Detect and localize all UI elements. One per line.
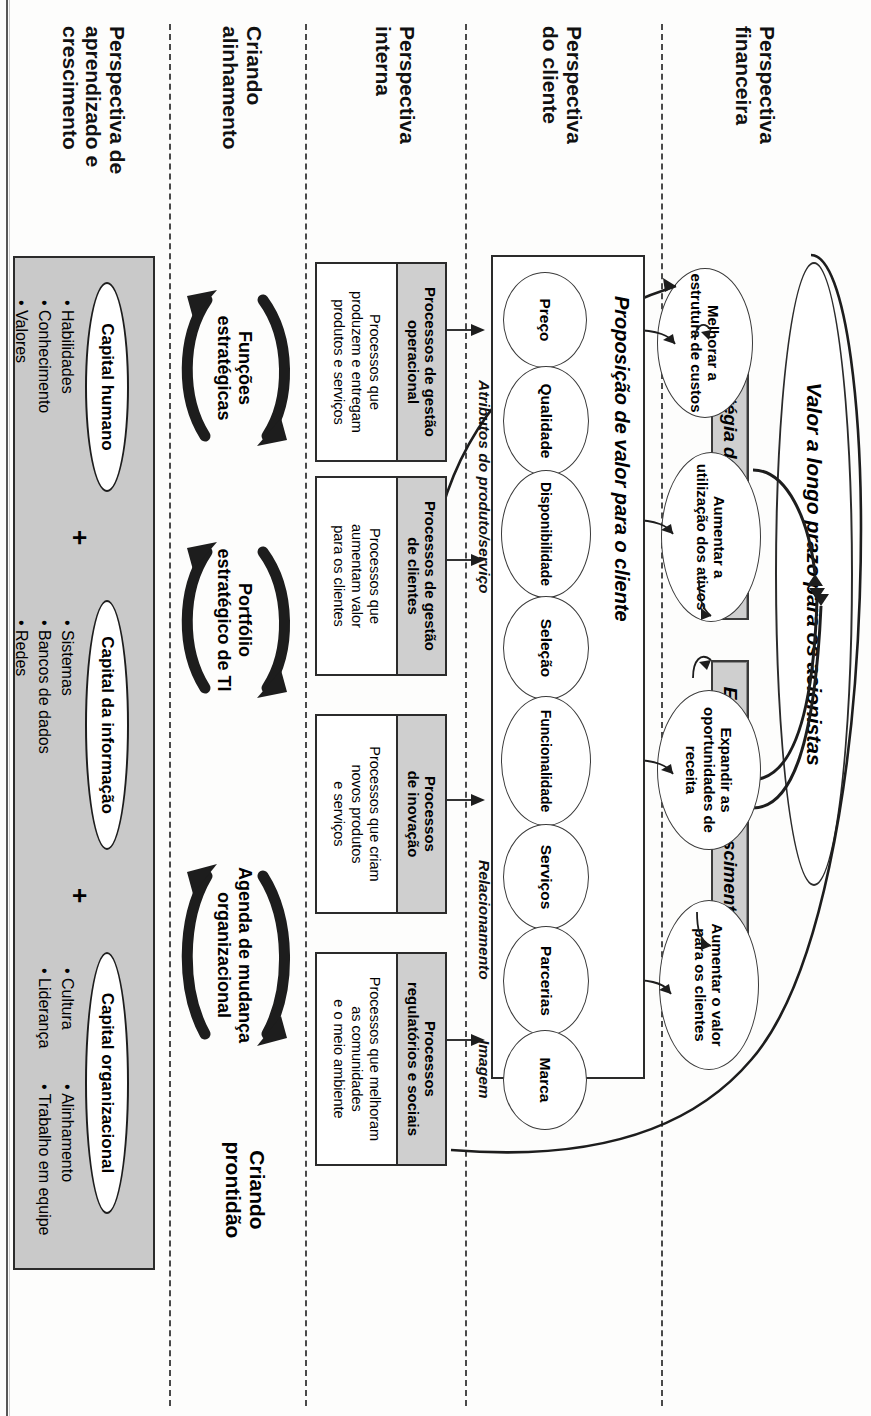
- capital-oval-organizacional: Capital organizacional: [85, 952, 129, 1214]
- perspective-label-aprendizado: Perspectiva de aprendizado e crescimento: [58, 26, 129, 236]
- strategy-map: Perspectiva financeira Perspectiva do cl…: [0, 0, 871, 1416]
- bullet-item: • Bancos de dados: [33, 620, 56, 754]
- internal-process-operacional: Processos de gestão operacional Processo…: [315, 262, 447, 462]
- plus-sign-2: +: [64, 888, 95, 903]
- heading-criando-prontidao: Criando prontidão: [222, 1090, 269, 1290]
- capital-oval-informacao: Capital da informação: [85, 600, 129, 850]
- rotated-diagram-wrapper: Perspectiva financeira Perspectiva do cl…: [0, 0, 871, 1416]
- capital-bullets-organizacional-col2: • Alinhamento • Trabalho em equipe: [33, 1084, 79, 1235]
- bullet-item: • Sistemas: [56, 620, 79, 754]
- alignment-label-agenda: Agenda de mudança organizacional: [214, 842, 255, 1068]
- capital-bullets-informacao: • Sistemas • Bancos de dados • Redes: [9, 620, 79, 754]
- internal-process-header: Processos de gestão de clientes: [397, 478, 446, 674]
- band-separator-alignment-learning: [169, 24, 171, 1406]
- bullet-item: • Liderança: [33, 968, 56, 1048]
- plus-sign-1: +: [64, 530, 95, 545]
- bullet-item: • Redes: [9, 620, 32, 754]
- bullet-item: • Valores: [9, 300, 32, 413]
- internal-process-regulatorios: Processos regulatórios e sociais Process…: [315, 952, 447, 1166]
- internal-process-body: Processos que melhoram as comunidades e …: [317, 954, 397, 1164]
- internal-process-body: Processos que criam novos produtos e ser…: [317, 716, 397, 912]
- capital-bullets-humano: • Habilidades • Conhecimento • Valores: [9, 300, 79, 413]
- bullet-item: • Trabalho em equipe: [33, 1084, 56, 1235]
- bullet-item: • Habilidades: [56, 300, 79, 413]
- bullet-item: • Cultura: [56, 968, 79, 1048]
- bullet-item: • Conhecimento: [33, 300, 56, 413]
- alignment-label-portfolio: Portfólio estratégico de TI: [214, 530, 255, 710]
- internal-process-header: Processos de inovação: [397, 716, 446, 912]
- perspective-label-alinhamento: Criando alinhamento: [219, 26, 266, 236]
- bullet-item: • Alinhamento: [56, 1084, 79, 1235]
- internal-to-customer-arrows: [271, 0, 871, 1416]
- internal-process-inovacao: Processos de inovação Processos que cria…: [315, 714, 447, 914]
- internal-process-header: Processos de gestão operacional: [397, 264, 446, 460]
- internal-process-clientes: Processos de gestão de clientes Processo…: [315, 476, 447, 676]
- internal-process-body: Processos que produzem e entregam produt…: [317, 264, 397, 460]
- internal-process-header: Processos regulatórios e sociais: [397, 954, 446, 1164]
- alignment-label-funcoes: Funções estratégicas: [214, 278, 255, 458]
- capital-bullets-organizacional-col1: • Cultura • Liderança: [33, 968, 79, 1048]
- internal-process-body: Processos que aumentam valor para os cli…: [317, 478, 397, 674]
- capital-oval-humano: Capital humano: [85, 282, 129, 492]
- scanned-page: Perspectiva financeira Perspectiva do cl…: [0, 0, 871, 1416]
